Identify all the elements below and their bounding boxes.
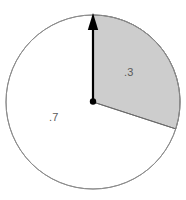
shaded-sector-label: .3 bbox=[124, 67, 134, 78]
pie-sector-figure: .3 .7 bbox=[0, 0, 186, 200]
center-dot bbox=[90, 98, 96, 104]
pie-diagram-svg bbox=[0, 0, 186, 200]
unshaded-sector-label: .7 bbox=[49, 112, 59, 123]
